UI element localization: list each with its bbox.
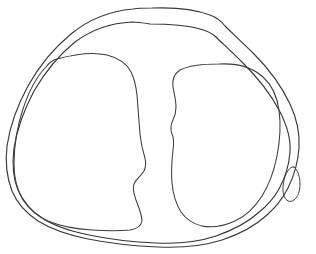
canvas-background xyxy=(0,0,316,254)
figure-root: Anatomical cross-section line drawing Bl… xyxy=(0,0,316,254)
anatomical-cross-section-drawing: Anatomical cross-section line drawing Bl… xyxy=(0,0,316,254)
